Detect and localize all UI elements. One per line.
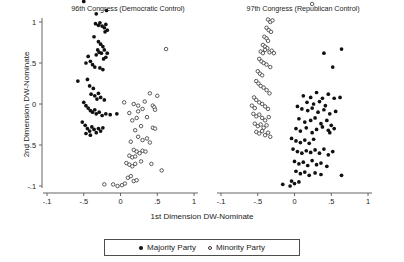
legend: Majority Party Minority Party [104, 239, 300, 256]
data-point-majority [281, 183, 285, 187]
data-point-minority [156, 94, 160, 98]
data-point-majority [293, 182, 297, 186]
data-point-majority [319, 161, 323, 165]
x-tick-label: .5 [319, 197, 343, 206]
data-point-majority [306, 164, 310, 168]
x-tick-label: 1 [356, 197, 380, 206]
data-point-minority [160, 169, 164, 173]
x-axis-title: 1st Dimension DW-Nominate [0, 212, 404, 221]
data-point-minority [265, 88, 269, 92]
legend-label-minority: Minority Party [216, 243, 265, 252]
data-point-minority [129, 174, 133, 178]
y-tick-label: 1 [16, 18, 36, 27]
data-point-majority [97, 110, 101, 114]
data-point-minority [116, 184, 120, 188]
data-point-majority [293, 160, 297, 164]
data-point-majority [95, 97, 99, 101]
x-tick-label: -.1 [35, 197, 59, 206]
data-point-majority [340, 47, 344, 51]
legend-item-minority: Minority Party [208, 243, 265, 252]
data-point-majority [307, 142, 311, 146]
data-point-majority [82, 101, 86, 105]
data-point-minority [128, 111, 132, 115]
data-point-majority [340, 173, 344, 177]
x-tick-label: -.1 [209, 197, 233, 206]
data-point-majority [288, 184, 292, 188]
data-point-majority [84, 132, 88, 136]
data-point-majority [322, 51, 326, 55]
data-point-minority [150, 162, 154, 166]
data-point-majority [315, 91, 319, 95]
data-point-majority [104, 23, 108, 27]
data-point-majority [104, 112, 108, 116]
x-tick-label: 0 [283, 197, 307, 206]
data-point-minority [103, 183, 107, 187]
data-point-minority [143, 100, 147, 104]
data-point-minority [133, 162, 137, 166]
data-point-minority [265, 124, 269, 128]
data-point-minority [268, 92, 272, 96]
data-point-minority [153, 108, 157, 112]
data-point-majority [321, 125, 325, 129]
data-point-majority [325, 164, 329, 168]
data-point-majority [326, 153, 330, 157]
data-point-majority [331, 65, 335, 69]
data-point-minority [148, 141, 152, 145]
data-point-majority [304, 149, 308, 153]
data-point-majority [310, 131, 314, 135]
data-point-majority [303, 170, 307, 174]
data-point-majority [324, 104, 328, 108]
data-point-majority [309, 151, 313, 155]
data-point-majority [315, 163, 319, 167]
data-point-majority [290, 137, 294, 141]
data-point-majority [108, 113, 112, 117]
data-point-minority [260, 74, 264, 78]
data-point-minority [269, 135, 273, 139]
data-point-majority [93, 94, 97, 98]
data-point-majority [297, 117, 301, 121]
data-point-minority [135, 116, 139, 120]
panel-title-right: 97th Congress (Republican Control) [222, 4, 384, 13]
data-point-minority [257, 113, 261, 117]
y-tick-label: .5 [16, 59, 36, 68]
data-point-majority [115, 112, 119, 116]
data-point-majority [89, 133, 93, 137]
data-point-majority [318, 151, 322, 155]
data-point-majority [94, 131, 98, 135]
data-point-majority [312, 137, 316, 141]
data-point-majority [86, 78, 90, 82]
scatter-plot-canvas [0, 0, 404, 262]
data-point-minority [164, 47, 168, 51]
data-point-minority [131, 119, 135, 123]
data-point-minority [136, 104, 140, 108]
data-point-minority [272, 51, 276, 55]
data-point-majority [313, 148, 317, 152]
data-point-minority [266, 131, 270, 135]
data-point-majority [96, 48, 100, 52]
data-point-majority [89, 60, 93, 64]
data-point-minority [133, 155, 137, 159]
data-point-minority [269, 65, 273, 69]
data-point-majority [303, 138, 307, 142]
data-point-majority [296, 150, 300, 154]
data-point-minority [123, 182, 127, 186]
data-point-majority [304, 126, 308, 130]
data-point-majority [299, 141, 303, 145]
data-point-majority [80, 120, 84, 124]
data-point-majority [329, 123, 333, 127]
data-point-majority [102, 26, 106, 30]
data-point-majority [94, 53, 98, 57]
data-point-majority [290, 179, 294, 183]
filled-circle-icon [139, 246, 143, 250]
data-point-minority [136, 135, 140, 139]
y-tick-label: 0 [16, 100, 36, 109]
data-point-minority [265, 63, 269, 67]
data-point-majority [76, 79, 80, 83]
data-point-minority [144, 150, 148, 154]
data-point-majority [321, 96, 325, 100]
data-point-majority [102, 98, 106, 102]
data-point-majority [297, 180, 301, 184]
y-tick-label: -.1 [16, 182, 36, 191]
x-tick-label: -.5 [246, 197, 270, 206]
data-point-majority [332, 96, 336, 100]
